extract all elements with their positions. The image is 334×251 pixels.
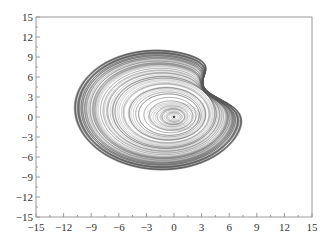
x-tick-label: −9 (85, 221, 97, 233)
trajectory-path (74, 50, 242, 170)
y-tick-label: −3 (21, 131, 33, 143)
x-tick-label: 15 (307, 221, 319, 233)
x-tick-label: 3 (199, 221, 205, 233)
x-tick-label: 6 (226, 221, 232, 233)
y-axis-tick-labels: −15−12−9−6−303691215 (16, 11, 34, 223)
x-tick-label: −6 (113, 221, 125, 233)
x-tick-label: 12 (279, 221, 290, 233)
y-tick-label: 0 (28, 111, 34, 123)
attractor-trajectory (74, 50, 242, 170)
x-tick-label: 9 (254, 221, 260, 233)
y-tick-label: −6 (21, 151, 33, 163)
y-tick-label: 12 (22, 31, 33, 43)
y-tick-label: 9 (28, 51, 34, 63)
x-tick-label: −12 (55, 221, 72, 233)
y-tick-label: 6 (28, 71, 34, 83)
y-tick-label: 3 (28, 91, 34, 103)
y-tick-label: −12 (16, 191, 33, 203)
y-tick-label: −15 (16, 211, 34, 223)
x-tick-label: 0 (171, 221, 177, 233)
y-tick-label: −9 (21, 171, 33, 183)
y-tick-label: 15 (22, 11, 34, 23)
focus-point (173, 116, 175, 118)
x-axis-tick-labels: −15−12−9−6−303691215 (27, 221, 318, 233)
phase-portrait-chart: −15−12−9−6−303691215 −15−12−9−6−30369121… (0, 0, 334, 251)
x-tick-label: −3 (141, 221, 153, 233)
